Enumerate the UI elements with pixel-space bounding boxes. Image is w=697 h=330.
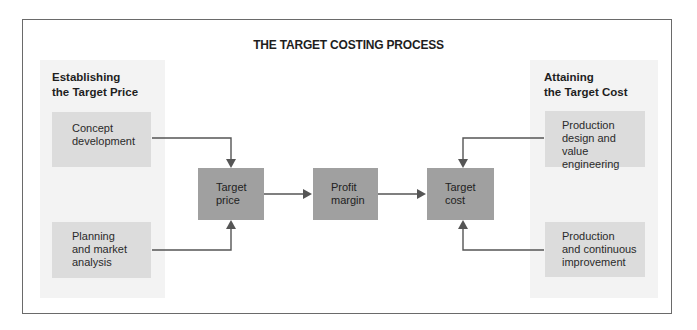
connector-arrows [0, 0, 697, 330]
arrowhead-down-icon [458, 159, 468, 168]
arrowhead-right-icon [417, 189, 426, 199]
arrowhead-up-icon [458, 220, 468, 229]
arrow-concept-to-target-price [152, 138, 231, 160]
arrowhead-right-icon [303, 189, 312, 199]
arrow-improvement-to-target-cost [463, 228, 544, 250]
arrow-design-to-target-cost [463, 138, 544, 160]
arrowhead-up-icon [226, 220, 236, 229]
arrowhead-down-icon [226, 159, 236, 168]
arrow-planning-to-target-price [152, 228, 231, 250]
